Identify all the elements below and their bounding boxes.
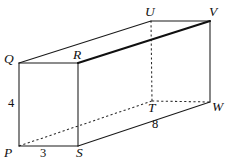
hidden-edges-group — [19, 21, 210, 146]
vertex-label-P: P — [4, 146, 12, 160]
vertex-label-V: V — [209, 5, 217, 19]
edge-QU — [19, 21, 151, 63]
visible-edges-group — [19, 21, 210, 146]
dimension-label-width: 3 — [40, 147, 46, 160]
vertex-label-S: S — [76, 146, 83, 160]
vertex-label-U: U — [145, 5, 155, 19]
prism-figure: Q R P S U V T W 4 3 8 — [0, 0, 229, 165]
vertex-label-T: T — [148, 101, 156, 115]
edge-TW — [152, 101, 210, 102]
dimension-label-depth: 8 — [152, 118, 158, 131]
edge-RV — [78, 21, 210, 63]
vertex-label-R: R — [73, 48, 81, 62]
edge-PT — [19, 101, 152, 146]
vertex-label-W: W — [212, 100, 223, 114]
prism-svg-canvas — [0, 0, 229, 165]
edge-TU — [151, 21, 152, 101]
dimension-label-height: 4 — [8, 97, 14, 110]
edge-SW — [78, 102, 210, 146]
bold-edges-group — [78, 21, 210, 63]
vertex-label-Q: Q — [4, 52, 14, 66]
